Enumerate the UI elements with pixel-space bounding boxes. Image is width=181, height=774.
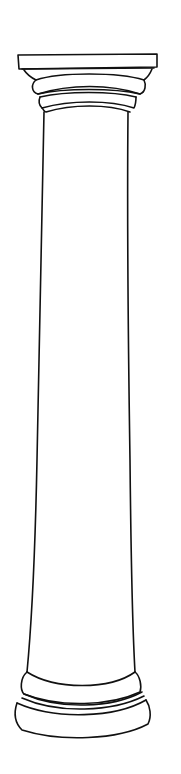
- base-moldings: [15, 672, 150, 738]
- abacus: [18, 54, 157, 69]
- capital-moldings: [24, 69, 152, 112]
- shaft: [27, 112, 135, 672]
- column-drawing: [0, 0, 181, 774]
